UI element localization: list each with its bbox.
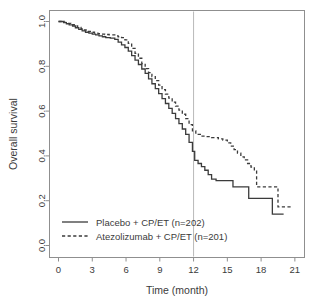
x-tick-label: 0	[56, 264, 61, 275]
x-tick-label: 6	[123, 264, 128, 275]
y-axis-title: Overall survival	[7, 98, 19, 170]
figure-background	[0, 0, 315, 307]
legend-label: Placebo + CP/ET (n=202)	[96, 217, 205, 228]
x-tick-label: 18	[256, 264, 267, 275]
y-tick-label: 0.6	[36, 104, 47, 117]
x-tick-label: 21	[290, 264, 301, 275]
y-tick-label: 0.0	[36, 239, 47, 252]
y-tick-label: 0.2	[36, 194, 47, 207]
legend-label: Atezolizumab + CP/ET (n=201)	[96, 231, 227, 242]
km-survival-figure: 0.00.20.40.60.81.0 036912151821 Placebo …	[0, 0, 315, 307]
y-tick-label: 0.8	[36, 60, 47, 73]
km-plot-canvas: 0.00.20.40.60.81.0 036912151821 Placebo …	[0, 0, 315, 307]
x-axis-title: Time (month)	[146, 284, 208, 296]
y-tick-label: 0.4	[36, 149, 47, 162]
x-tick-label: 9	[157, 264, 162, 275]
x-tick-label: 12	[188, 264, 199, 275]
x-tick-label: 3	[90, 264, 95, 275]
x-tick-label: 15	[222, 264, 233, 275]
y-tick-label: 1.0	[36, 15, 47, 28]
